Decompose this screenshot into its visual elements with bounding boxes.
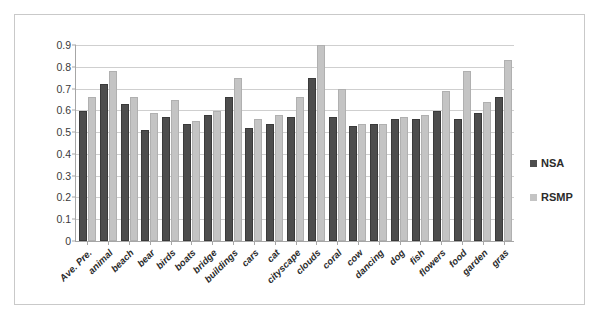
x-axis-label-cell: coral [326,243,347,303]
bar-rsmp [171,100,179,241]
y-axis-tick-label: 0.2 [56,191,71,203]
bar-group [139,45,160,241]
plot-area: 0.90.80.70.60.50.40.30.20.10 Ave. Pre.an… [75,45,513,271]
bar-nsa [204,115,212,241]
bar-nsa [370,124,378,241]
bar-nsa [433,111,441,241]
bar-nsa [245,128,253,241]
bar-groups [77,45,514,241]
bar-rsmp [421,115,429,241]
y-axis-tick-label: 0.4 [56,148,71,160]
bar-rsmp [338,89,346,241]
bar-group [472,45,493,241]
bar-group [160,45,181,241]
y-axis-tick-mark [72,88,76,89]
bar-group [119,45,140,241]
bar-nsa [349,126,357,241]
bar-group [306,45,327,241]
bar-rsmp [130,97,138,241]
x-axis-label-cell: clouds [305,243,326,303]
bar-rsmp [400,117,408,241]
bar-group [202,45,223,241]
bar-rsmp [317,45,325,241]
x-axis-label-cell: bear [138,243,159,303]
bar-rsmp [463,71,471,241]
y-axis-tick-label: 0.6 [56,104,71,116]
legend-item[interactable]: RSMP [530,191,600,203]
bar-group [98,45,119,241]
x-axis-label-cell: beach [118,243,139,303]
x-axis-tick-label: gras [488,247,510,269]
chart-legend: NSARSMP [530,157,600,225]
legend-item[interactable]: NSA [530,157,600,169]
legend-swatch-icon [530,160,537,167]
bar-rsmp [358,124,366,241]
bar-rsmp [296,97,304,241]
x-axis-tick-label: cars [239,247,261,269]
bar-group [264,45,285,241]
chart-frame: 0.90.80.70.60.50.40.30.20.10 Ave. Pre.an… [14,14,585,305]
plot-bars-zone: 0.90.80.70.60.50.40.30.20.10 [75,45,514,242]
bar-rsmp [234,78,242,241]
y-axis-tick-label: 0.5 [56,126,71,138]
bar-nsa [183,124,191,241]
bar-nsa [79,111,87,241]
bar-group [348,45,369,241]
x-axis-label-cell: birds [159,243,180,303]
y-axis-tick-mark [72,219,76,220]
y-axis-tick-mark [72,197,76,198]
x-axis-label-cell: dog [388,243,409,303]
bar-nsa [121,104,129,241]
bar-nsa [412,119,420,241]
x-axis-label-cell: gras [492,243,513,303]
x-axis-tick-label: bear [135,247,157,269]
bar-rsmp [150,113,158,241]
y-axis-tick-mark [72,45,76,46]
bar-nsa [100,84,108,241]
bar-nsa [287,117,295,241]
y-axis-tick-mark [72,153,76,154]
bar-rsmp [483,102,491,241]
x-axis-label-cell: cars [243,243,264,303]
bar-group [285,45,306,241]
y-axis-tick-mark [72,132,76,133]
y-axis-tick-label: 0.7 [56,83,71,95]
bar-group [410,45,431,241]
bar-group [77,45,98,241]
y-axis-tick-label: 0.1 [56,213,71,225]
x-axis-label-cell: dancing [367,243,388,303]
x-axis-label-cell: flowers [430,243,451,303]
y-axis-tick-mark [72,241,76,242]
bar-rsmp [504,60,512,241]
y-axis-tick-label: 0.9 [56,39,71,51]
bar-nsa [225,97,233,241]
bar-group [452,45,473,241]
bar-group [368,45,389,241]
bar-group [223,45,244,241]
bar-nsa [308,78,316,241]
bar-rsmp [192,121,200,241]
bar-nsa [329,117,337,241]
bar-nsa [266,124,274,241]
bar-rsmp [88,97,96,241]
bar-group [389,45,410,241]
y-axis-tick-mark [72,66,76,67]
legend-label: NSA [541,157,564,169]
bar-nsa [474,113,482,241]
x-axis-label-cell: buildings [222,243,243,303]
bar-group [327,45,348,241]
y-axis-tick-mark [72,175,76,176]
bar-nsa [495,97,503,241]
legend-label: RSMP [541,191,573,203]
x-axis-labels: Ave. Pre.animalbeachbearbirdsboatsbridge… [76,243,513,303]
bar-group [431,45,452,241]
y-axis-tick-label: 0 [65,235,71,247]
bar-nsa [391,119,399,241]
bar-rsmp [254,119,262,241]
x-axis-label-cell: garden [471,243,492,303]
bar-group [244,45,265,241]
bar-group [493,45,514,241]
bar-rsmp [109,71,117,241]
bar-group [181,45,202,241]
bar-nsa [141,130,149,241]
